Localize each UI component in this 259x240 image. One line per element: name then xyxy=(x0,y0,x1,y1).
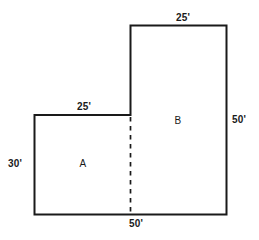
region-label-a: A xyxy=(76,158,90,169)
geometry-diagram: 25' 25' 50' 30' 50' A B xyxy=(0,0,259,240)
dimension-label-left-a: 30' xyxy=(8,158,34,169)
dimension-label-right-b: 50' xyxy=(232,114,256,125)
dimension-label-bottom: 50' xyxy=(123,218,149,229)
region-label-b: B xyxy=(171,115,185,126)
dimension-label-top-a: 25' xyxy=(71,101,97,112)
dimension-label-top-b: 25' xyxy=(170,12,196,23)
lot-outline-svg xyxy=(0,0,259,240)
